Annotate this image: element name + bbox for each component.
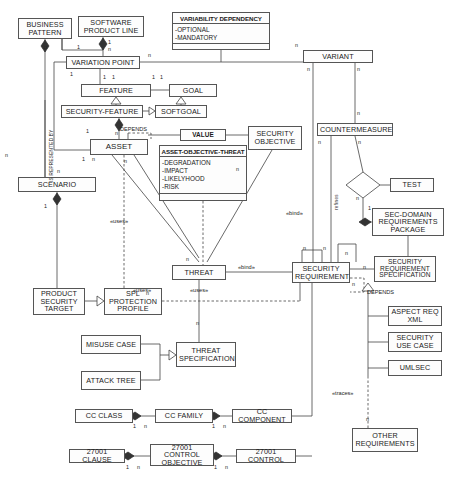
node-label: CC CLASS bbox=[78, 412, 130, 420]
node-cc-class[interactable]: CC CLASS bbox=[75, 409, 133, 423]
node-countermeasure[interactable]: COUNTERMEASURE bbox=[317, 123, 393, 136]
multiplicity: n bbox=[236, 166, 239, 172]
node-label: ASSET bbox=[93, 143, 145, 151]
node-business-pattern[interactable]: BUSINESS PATTERN bbox=[18, 18, 72, 39]
class-operations bbox=[160, 193, 246, 201]
multiplicity: n bbox=[115, 130, 118, 136]
multiplicity: n bbox=[57, 168, 60, 174]
node-variation-point[interactable]: VARIATION POINT bbox=[66, 56, 140, 69]
node-softgoal[interactable]: SOFTGOAL bbox=[155, 105, 207, 118]
multiplicity: n bbox=[223, 423, 226, 429]
multiplicity: 1 bbox=[86, 128, 89, 134]
multiplicity: n bbox=[186, 256, 189, 262]
node-value[interactable]: VALUE bbox=[180, 129, 226, 141]
edge-label-uses-threat-right: «uses» bbox=[190, 287, 208, 293]
multiplicity: 1 bbox=[70, 71, 73, 77]
multiplicity: n bbox=[137, 464, 140, 470]
multiplicity: n bbox=[44, 44, 47, 50]
multiplicity: 1 bbox=[112, 74, 115, 80]
multiplicity: n bbox=[356, 195, 359, 201]
class-attributes: -OPTIONAL -MANDATORY bbox=[173, 24, 269, 43]
multiplicity: n bbox=[303, 245, 306, 251]
node-label: MISUSE CASE bbox=[84, 341, 138, 349]
node-threat-specification[interactable]: THREAT SPECIFICATION bbox=[176, 342, 236, 367]
node-sec-domain-requirements-package[interactable]: SEC-DOMAIN REQUIREMENTS PACKAGE bbox=[372, 208, 444, 236]
node-label: BUSINESS PATTERN bbox=[21, 21, 69, 36]
multiplicity: n bbox=[352, 281, 355, 287]
class-operations bbox=[173, 43, 269, 51]
node-asset[interactable]: ASSET bbox=[90, 139, 148, 155]
class-box-variability-dependency[interactable]: VARIABILITY DEPENDENCY -OPTIONAL -MANDAT… bbox=[172, 12, 270, 50]
multiplicity: n bbox=[363, 264, 366, 270]
uml-class-diagram: BUSINESS PATTERN SOFTWARE PRODUCT LINE V… bbox=[0, 0, 463, 486]
multiplicity: 1 bbox=[77, 44, 80, 50]
class-box-asset-objective-threat[interactable]: ASSET-OBJECTIVE-THREAT -DEGRADATION -IMP… bbox=[159, 145, 247, 201]
node-product-security-target[interactable]: PRODUCT SECURITY TARGET bbox=[33, 288, 85, 315]
node-other-requirements[interactable]: OTHER REQUIREMENTS bbox=[352, 428, 418, 452]
node-feature[interactable]: FEATURE bbox=[81, 84, 151, 97]
node-label: SOFTWARE PRODUCT LINE bbox=[81, 19, 141, 34]
multiplicity: 1 bbox=[108, 39, 111, 45]
multiplicity: n bbox=[318, 139, 321, 145]
node-label: FEATURE bbox=[84, 87, 148, 95]
node-security-feature[interactable]: SECURITY-FEATURE bbox=[61, 105, 143, 118]
node-cc-family[interactable]: CC FAMILY bbox=[155, 409, 213, 423]
multiplicity: n bbox=[345, 250, 348, 256]
node-label: 27001 CONTROL OBJECTIVE bbox=[153, 444, 211, 467]
class-attribute: -OPTIONAL bbox=[175, 26, 267, 34]
node-label: 27001 CONTROL bbox=[239, 448, 293, 463]
node-label: SECURITY REQUIREMENT SPECIFICATION bbox=[377, 259, 433, 280]
node-aspect-req-xml[interactable]: ASPECT REQ XML bbox=[388, 306, 442, 326]
node-27001-clause[interactable]: 27001 CLAUSE bbox=[69, 449, 125, 463]
multiplicity: 1 bbox=[82, 156, 85, 162]
node-label: VALUE bbox=[183, 132, 223, 139]
edge-label-bind-objective: «bind» bbox=[286, 210, 303, 216]
multiplicity: n bbox=[225, 464, 228, 470]
node-misuse-case[interactable]: MISUSE CASE bbox=[81, 335, 141, 354]
node-27001-control[interactable]: 27001 CONTROL bbox=[236, 449, 296, 463]
multiplicity: 1 bbox=[214, 464, 217, 470]
node-test[interactable]: TEST bbox=[390, 178, 434, 192]
multiplicity: 1 bbox=[44, 203, 47, 209]
node-security-objective[interactable]: SECURITY OBJECTIVE bbox=[248, 126, 302, 150]
node-security-use-case[interactable]: SECURITY USE CASE bbox=[388, 332, 442, 352]
class-title: ASSET-OBJECTIVE-THREAT bbox=[160, 146, 246, 157]
node-threat[interactable]: THREAT bbox=[172, 265, 226, 280]
multiplicity: 1 bbox=[212, 423, 215, 429]
multiplicity: 1 bbox=[126, 464, 129, 470]
node-cc-component[interactable]: CC COMPONENT bbox=[232, 409, 292, 423]
node-label: GOAL bbox=[172, 87, 214, 95]
node-variant[interactable]: VARIANT bbox=[303, 50, 373, 63]
node-software-product-line[interactable]: SOFTWARE PRODUCT LINE bbox=[78, 16, 144, 37]
node-attack-tree[interactable]: ATTACK TREE bbox=[81, 371, 141, 390]
edge-label-depends-asset: DEPENDS bbox=[120, 126, 147, 132]
class-attribute: -IMPACT bbox=[162, 167, 244, 175]
edge-label-is-represented-by: IS REPRESENTED BY bbox=[49, 129, 54, 182]
node-label: SPL PROTECTION PROFILE bbox=[107, 290, 159, 313]
node-27001-control-objective[interactable]: 27001 CONTROL OBJECTIVE bbox=[150, 444, 214, 466]
class-attribute: -DEGRADATION bbox=[162, 159, 244, 167]
node-label: 27001 CLAUSE bbox=[72, 448, 122, 463]
edge-label-bind-threat-requirement: «bind» bbox=[238, 264, 255, 270]
node-goal[interactable]: GOAL bbox=[169, 84, 217, 97]
class-attribute: -MANDATORY bbox=[175, 34, 267, 42]
node-label: ATTACK TREE bbox=[84, 377, 138, 385]
node-label: COUNTERMEASURE bbox=[320, 126, 390, 134]
multiplicity: n bbox=[196, 320, 199, 326]
node-umlsec[interactable]: UMLSEC bbox=[388, 360, 442, 376]
node-label: THREAT bbox=[175, 269, 223, 277]
node-label: SECURITY-FEATURE bbox=[64, 108, 140, 116]
multiplicity: n bbox=[357, 66, 360, 72]
multiplicity: 1 bbox=[160, 74, 163, 80]
edge-label-traces-other-requirements: «traces» bbox=[332, 390, 353, 396]
node-label: SOFTGOAL bbox=[158, 108, 204, 116]
node-label: VARIATION POINT bbox=[69, 59, 137, 67]
node-label: SECURITY USE CASE bbox=[391, 334, 439, 349]
node-scenario[interactable]: SCENARIO bbox=[18, 177, 96, 192]
multiplicity: n bbox=[108, 46, 111, 52]
multiplicity: 1 bbox=[103, 74, 106, 80]
node-label: VARIANT bbox=[306, 53, 370, 61]
multiplicity: 1 bbox=[152, 74, 155, 80]
node-security-requirement[interactable]: SECURITY REQUIREMENT bbox=[292, 262, 350, 283]
node-security-requirement-specification[interactable]: SECURITY REQUIREMENT SPECIFICATION bbox=[374, 256, 436, 282]
